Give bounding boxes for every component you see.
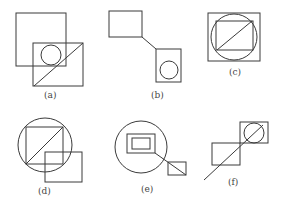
figure-b: (b) <box>109 11 181 100</box>
figure-label-e: (e) <box>141 184 153 194</box>
figure-label-f: (f) <box>228 177 238 187</box>
diagonal-line <box>34 43 83 86</box>
lower-rectangle <box>212 143 240 165</box>
diagonal-line <box>155 153 186 175</box>
figure-label-a: (a) <box>44 90 56 100</box>
inner-rectangle <box>132 138 150 149</box>
figure-c: (c) <box>208 13 260 77</box>
circle <box>115 121 167 173</box>
diagonal-line <box>217 21 252 50</box>
figure-a: (a) <box>16 13 83 100</box>
figure-label-c: (c) <box>229 67 241 77</box>
upper-rectangle <box>109 11 142 37</box>
figure-d: (d) <box>18 118 82 196</box>
circle <box>160 61 178 79</box>
circle <box>41 45 61 65</box>
diagonal-line <box>204 125 263 180</box>
figure-e: (e) <box>115 121 186 194</box>
figure-label-d: (d) <box>38 186 51 196</box>
figure-label-b: (b) <box>151 90 164 100</box>
figure-f: (f) <box>204 122 268 187</box>
outer-rectangle <box>127 134 155 153</box>
connector-line <box>142 37 156 49</box>
diagram-canvas: (a) (b) (c) (d) (e) (f) <box>0 0 282 202</box>
